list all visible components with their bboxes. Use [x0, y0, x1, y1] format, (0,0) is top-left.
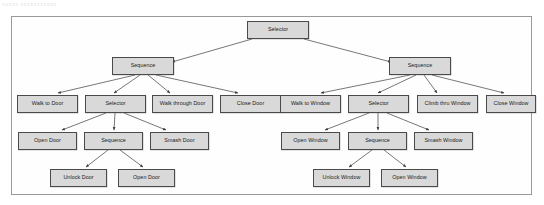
node-label: Smash Window [424, 138, 462, 143]
edge-seq-door-to-sel-door [114, 75, 140, 93]
edge-seq-window-to-walk-to-window [321, 75, 410, 93]
node-unlock-door[interactable]: Unlock Door [50, 169, 107, 187]
edge-seq-window-to-climb-thru-win [424, 75, 437, 93]
node-sel-door[interactable]: Selector [85, 95, 146, 113]
edge-seq-window-to-sel-window [378, 75, 416, 93]
edge-sel-door-to-smash-door [124, 113, 166, 130]
node-sel-window[interactable]: Selector [348, 95, 409, 113]
diagram-frame: SelectorSequenceSequenceWalk to DoorSele… [11, 16, 532, 195]
node-seq-unlock-door[interactable]: Sequence [84, 132, 143, 150]
node-climb-thru-win[interactable]: Climb thru Window [417, 95, 478, 113]
node-label: Sequence [365, 138, 390, 143]
node-smash-door[interactable]: Smash Door [150, 132, 209, 150]
edge-seq-window-to-close-window [432, 75, 504, 93]
node-open-door-1[interactable]: Open Door [18, 132, 77, 150]
edge-sel-window-to-open-window-1 [325, 113, 369, 130]
node-close-window[interactable]: Close Window [486, 95, 536, 113]
node-root[interactable]: Selector [247, 21, 309, 39]
node-label: Selector [368, 101, 388, 106]
node-close-door[interactable]: Close Door [220, 95, 281, 113]
node-open-window-2[interactable]: Open Window [381, 169, 438, 187]
node-label: Close Window [493, 101, 528, 106]
node-open-door-2[interactable]: Open Door [118, 169, 175, 187]
node-label: Open Door [34, 138, 61, 143]
node-label: Sequence [101, 138, 126, 143]
node-label: Unlock Window [323, 175, 361, 180]
node-label: Climb thru Window [424, 101, 470, 106]
edge-seq-door-to-walk-to-door [58, 75, 135, 93]
edge-root-to-seq-door [172, 39, 252, 62]
edge-sel-window-to-smash-window [387, 113, 429, 130]
figure-canvas: xxxxx xxxxxxxxxxx SelectorSequenceSequen… [0, 0, 544, 205]
node-label: Open Window [293, 138, 327, 143]
node-unlock-window[interactable]: Unlock Window [313, 169, 370, 187]
edge-sel-door-to-seq-unlock-door [114, 113, 115, 130]
edge-seq-unlock-win-to-unlock-window [349, 150, 372, 167]
edge-sel-door-to-open-door-1 [62, 113, 106, 130]
node-seq-door[interactable]: Sequence [112, 57, 174, 75]
node-open-window-1[interactable]: Open Window [281, 132, 340, 150]
edge-seq-unlock-win-to-open-window-2 [384, 150, 406, 167]
caption-fragment: xxxxx xxxxxxxxxxx [2, 1, 120, 7]
node-label: Selector [105, 101, 125, 106]
edge-seq-door-to-walk-thru-door [148, 75, 170, 93]
node-walk-to-window[interactable]: Walk to Window [280, 95, 341, 113]
node-label: Close Door [237, 101, 264, 106]
node-seq-window[interactable]: Sequence [389, 57, 451, 75]
node-label: Walk through Door [160, 101, 206, 106]
edge-seq-unlock-door-to-unlock-door [86, 150, 108, 167]
node-smash-window[interactable]: Smash Window [414, 132, 473, 150]
node-seq-unlock-win[interactable]: Sequence [348, 132, 407, 150]
node-label: Unlock Door [63, 175, 93, 180]
node-label: Smash Door [164, 138, 194, 143]
node-walk-to-door[interactable]: Walk to Door [17, 95, 78, 113]
node-label: Sequence [408, 63, 433, 68]
edge-root-to-seq-window [304, 39, 391, 62]
node-label: Open Window [392, 175, 426, 180]
node-label: Selector [268, 27, 288, 32]
edge-seq-unlock-door-to-open-door-2 [120, 150, 143, 167]
edge-seq-door-to-close-door [156, 75, 238, 93]
node-walk-thru-door[interactable]: Walk through Door [152, 95, 213, 113]
node-label: Open Door [133, 175, 160, 180]
node-label: Sequence [131, 63, 156, 68]
node-label: Walk to Door [32, 101, 64, 106]
node-label: Walk to Window [291, 101, 330, 106]
